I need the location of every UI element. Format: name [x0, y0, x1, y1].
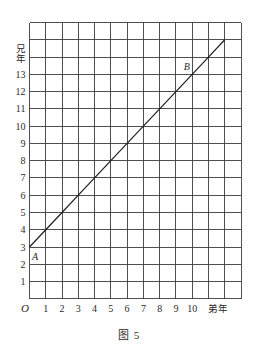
y-tick-label: 9: [21, 138, 26, 149]
y-tick-label: 3: [21, 242, 26, 253]
point-label-b: B: [184, 61, 190, 72]
y-tick-label: 10: [16, 121, 26, 132]
point-label-a: A: [31, 251, 39, 262]
x-tick-label: 1: [43, 303, 48, 314]
y-tick-label: 13: [16, 69, 26, 80]
y-tick-label: 4: [21, 224, 26, 235]
y-tick-label: 5: [21, 207, 26, 218]
y-tick-label: 8: [21, 155, 26, 166]
y-tick-label: 6: [21, 190, 26, 201]
x-tick-label: 3: [76, 303, 81, 314]
y-tick-label: 2: [21, 259, 26, 270]
y-axis-label: 兄年: [16, 44, 26, 63]
y-tick-label: 1: [21, 276, 26, 287]
line-chart: 12345678910 12345678910111213 AB O 弟年: [0, 0, 258, 356]
x-tick-label: 4: [92, 303, 97, 314]
x-axis-label: 弟年: [208, 303, 228, 314]
x-tick-label: 8: [157, 303, 162, 314]
figure: 12345678910 12345678910111213 AB O 弟年 兄年…: [0, 0, 258, 356]
x-tick-label: 9: [173, 303, 178, 314]
x-axis-ticks: 12345678910: [43, 303, 197, 314]
y-axis-ticks: 12345678910111213: [16, 69, 26, 287]
y-tick-label: 7: [21, 172, 26, 183]
x-tick-label: 2: [60, 303, 65, 314]
figure-caption: 图 5: [0, 326, 258, 342]
x-tick-label: 5: [108, 303, 113, 314]
origin-label: O: [21, 302, 29, 314]
y-tick-label: 11: [16, 103, 26, 114]
chart-grid: [30, 23, 242, 299]
x-tick-label: 7: [141, 303, 146, 314]
x-tick-label: 6: [125, 303, 130, 314]
x-tick-label: 10: [187, 303, 197, 314]
y-tick-label: 12: [16, 86, 26, 97]
